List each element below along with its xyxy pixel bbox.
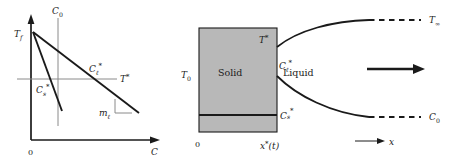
phase-diagram-origin-label: 0: [28, 148, 33, 157]
solidification-front-panel: Solid Liquid T0 T* Cℓ* Cs* T∞ C0 0 x*(t)…: [173, 0, 473, 165]
concentration-axis-label: C: [151, 147, 158, 157]
liquidus-line: [33, 32, 139, 113]
temperature-profile-curve: [277, 20, 369, 47]
front-position-label: x*(t): [260, 140, 280, 151]
fusion-temperature-label: Tf: [14, 29, 24, 42]
phase-diagram-x-axis: [31, 137, 160, 144]
figure-container: Tf C0 Cℓ* T* Cs* mℓ 0 C: [0, 0, 473, 165]
growth-direction-arrow: [367, 64, 425, 74]
x-coordinate-label: x: [389, 137, 394, 147]
phase-diagram-panel: Tf C0 Cℓ* T* Cs* mℓ 0 C: [0, 0, 175, 165]
solid-region-label: Solid: [218, 67, 242, 78]
liquidus-slope-label: mℓ: [99, 108, 111, 120]
interface-temperature-label: T*: [120, 73, 130, 84]
solid-interface-concentration-label: Cs*: [36, 83, 50, 96]
solid-concentration-label-right: Cs*: [280, 107, 294, 121]
liquid-interface-concentration-label: Cℓ*: [89, 62, 102, 75]
solid-region-block: [199, 28, 277, 132]
x-coordinate-arrow: [355, 138, 385, 144]
far-field-temperature-label: T∞: [429, 15, 440, 27]
solidification-origin-label: 0: [195, 140, 200, 149]
wall-temperature-label: T0: [181, 70, 191, 82]
far-field-concentration-label: C0: [429, 112, 440, 124]
bulk-concentration-label: C0: [52, 6, 63, 18]
